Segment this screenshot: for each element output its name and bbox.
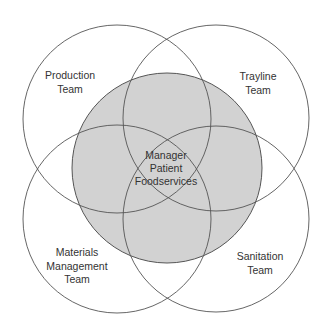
label-line: Foodservices: [135, 175, 197, 187]
label-line: Manager: [145, 149, 187, 161]
label-line: Patient: [150, 162, 183, 174]
label-line: Materials: [56, 246, 99, 258]
label-line: Sanitation: [237, 250, 284, 262]
label-production-team: Production Team: [45, 69, 95, 95]
label-line: Team: [245, 84, 271, 96]
label-line: Production: [45, 69, 95, 81]
label-sanitation-team: Sanitation Team: [237, 250, 284, 276]
label-line: Team: [57, 83, 83, 95]
label-line: Team: [64, 273, 90, 285]
label-line: Team: [247, 264, 273, 276]
label-line: Trayline: [240, 70, 277, 82]
venn-diagram: Production Team Trayline Team Materials …: [0, 0, 320, 335]
label-materials-team: Materials Management Team: [46, 246, 107, 285]
label-line: Management: [46, 260, 107, 272]
label-trayline-team: Trayline Team: [240, 70, 277, 96]
